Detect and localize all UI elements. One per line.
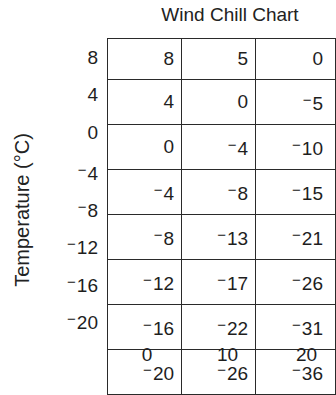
row-label: 8 xyxy=(40,38,100,75)
wind-chill-table: 85040−50−4−10−4−8−15−8−13−21−12−17−26−16… xyxy=(107,38,336,395)
table-cell: 5 xyxy=(182,39,256,80)
row-label: −12 xyxy=(40,224,100,261)
minus-sign: − xyxy=(217,226,226,243)
minus-sign: − xyxy=(67,235,76,252)
minus-sign: − xyxy=(154,181,163,198)
table-row: 0−4−10 xyxy=(108,125,336,170)
table-cell: −4 xyxy=(108,170,182,215)
minus-sign: − xyxy=(78,198,87,215)
table-cell: −17 xyxy=(182,260,256,305)
minus-sign: − xyxy=(217,271,226,288)
table-cell: −31 xyxy=(256,305,336,350)
row-label: 4 xyxy=(40,75,100,112)
minus-sign: − xyxy=(292,226,301,243)
table-cell: 0 xyxy=(182,80,256,125)
row-label: 0 xyxy=(40,113,100,150)
table-row: −16−22−31 xyxy=(108,305,336,350)
table-cell: −8 xyxy=(182,170,256,215)
column-label: 10 xyxy=(187,344,266,366)
table-cell: −22 xyxy=(182,305,256,350)
minus-sign: − xyxy=(154,226,163,243)
table-row: −8−13−21 xyxy=(108,215,336,260)
table-cell: 4 xyxy=(108,80,182,125)
y-axis-label: Temperature (°C) xyxy=(11,133,34,287)
table-cell: −13 xyxy=(182,215,256,260)
table-cell: −12 xyxy=(108,260,182,305)
table-cell: 8 xyxy=(108,39,182,80)
column-label: 0 xyxy=(107,344,187,366)
minus-sign: − xyxy=(292,316,301,333)
table-cell: −5 xyxy=(256,80,336,125)
table-cell: −26 xyxy=(256,260,336,305)
chart-title: Wind Chill Chart xyxy=(120,4,336,26)
table-row: −12−17−26 xyxy=(108,260,336,305)
row-label: −20 xyxy=(40,299,100,336)
row-label: −8 xyxy=(40,187,100,224)
minus-sign: − xyxy=(143,316,152,333)
table-cell: −10 xyxy=(256,125,336,170)
table-cell: 0 xyxy=(108,125,182,170)
minus-sign: − xyxy=(67,273,76,290)
table-cell: −15 xyxy=(256,170,336,215)
minus-sign: − xyxy=(217,316,226,333)
minus-sign: − xyxy=(228,181,237,198)
table-row: −4−8−15 xyxy=(108,170,336,215)
table-cell: −8 xyxy=(108,215,182,260)
column-labels: 01020 xyxy=(107,344,336,366)
minus-sign: − xyxy=(143,271,152,288)
minus-sign: − xyxy=(228,136,237,153)
minus-sign: − xyxy=(292,271,301,288)
row-label: −4 xyxy=(40,150,100,187)
table-cell: 0 xyxy=(256,39,336,80)
minus-sign: − xyxy=(67,310,76,327)
minus-sign: − xyxy=(292,181,301,198)
minus-sign: − xyxy=(292,136,301,153)
table-row: 40−5 xyxy=(108,80,336,125)
minus-sign: − xyxy=(78,161,87,178)
row-labels: 840−4−8−12−16−20 xyxy=(40,38,100,336)
table-cell: −4 xyxy=(182,125,256,170)
column-label: 20 xyxy=(266,344,336,366)
minus-sign: − xyxy=(303,91,312,108)
table-cell: −21 xyxy=(256,215,336,260)
row-label: −16 xyxy=(40,262,100,299)
table-cell: −16 xyxy=(108,305,182,350)
table-row: 850 xyxy=(108,39,336,80)
